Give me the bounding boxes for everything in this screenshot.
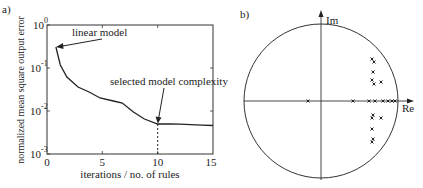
svg-text:100: 100	[33, 16, 48, 31]
panel-a-label: a)	[2, 3, 11, 16]
arrowhead-icon	[156, 117, 162, 124]
im-arrow-icon	[319, 10, 324, 17]
selected-model-annotation: selected model complexity	[110, 75, 228, 87]
svg-text:0: 0	[44, 156, 50, 168]
selected-model-arrow	[159, 88, 165, 119]
arrowhead-icon	[56, 43, 64, 49]
linear-model-arrow	[60, 39, 102, 47]
x-tick-labels: 0 5 10 15	[44, 156, 217, 168]
y-axis-label: normalized mean square output error	[15, 15, 26, 163]
panel-b-label: b)	[240, 8, 250, 21]
re-label: Re	[402, 102, 414, 114]
panel-b: b) Im Re	[240, 8, 414, 180]
svg-text:10-1: 10-1	[30, 59, 48, 74]
y-tick-labels: 100 10-1 10-2 10-3	[30, 16, 48, 160]
linear-model-annotation: linear model	[72, 26, 127, 38]
x-axis-label: iterations / no. of rules	[80, 168, 179, 180]
panel-a: a) 100 10-1 10-2 10-3 0 5	[2, 3, 228, 180]
svg-text:10-2: 10-2	[30, 102, 48, 117]
svg-text:15: 15	[206, 156, 218, 168]
pole-markers	[307, 58, 397, 144]
figure: a) 100 10-1 10-2 10-3 0 5	[0, 0, 423, 188]
svg-text:10: 10	[152, 156, 164, 168]
svg-text:5: 5	[100, 156, 106, 168]
im-label: Im	[326, 14, 339, 26]
x-ticks	[102, 25, 157, 154]
